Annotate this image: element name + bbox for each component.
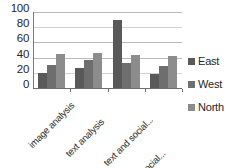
bar-east[interactable] <box>150 74 159 88</box>
bar-east[interactable] <box>38 73 47 88</box>
y-tick-label: 40 <box>17 49 29 61</box>
y-axis: 100806040200 <box>0 8 31 88</box>
bar-west[interactable] <box>122 63 131 88</box>
bar-north[interactable] <box>56 54 65 88</box>
bar-north[interactable] <box>131 55 140 88</box>
y-tick-label: 60 <box>17 33 29 45</box>
legend-label: North <box>198 102 224 113</box>
bar-north[interactable] <box>168 56 177 88</box>
bar-group <box>38 12 65 88</box>
y-tick-label: 80 <box>17 18 29 30</box>
legend-swatch-icon <box>188 104 195 111</box>
x-category-label: image analysis <box>27 100 77 150</box>
bar-north[interactable] <box>93 53 102 88</box>
bar-west[interactable] <box>159 66 168 88</box>
legend-item-north[interactable]: North <box>188 101 224 113</box>
legend-swatch-icon <box>188 81 195 88</box>
legend-swatch-icon <box>188 58 195 65</box>
legend-label: East <box>198 56 219 67</box>
y-tick-label: 100 <box>11 3 29 15</box>
bar-group <box>150 12 177 88</box>
y-tick-label: 0 <box>23 79 29 91</box>
x-category-label: text analysis <box>64 117 106 159</box>
legend-item-east[interactable]: East <box>188 55 219 67</box>
legend-item-west[interactable]: West <box>188 78 222 90</box>
bar-group <box>75 12 102 88</box>
bar-group <box>113 12 140 88</box>
bar-east[interactable] <box>75 68 84 88</box>
bar-west[interactable] <box>47 65 56 88</box>
plot-area <box>33 12 182 89</box>
bar-chart: 100806040200 image analysistext analysis… <box>0 0 241 168</box>
x-category-label: social... <box>139 148 168 168</box>
legend-label: West <box>198 79 222 90</box>
bar-west[interactable] <box>84 60 93 88</box>
y-tick-label: 20 <box>17 64 29 76</box>
bars-layer <box>33 12 182 89</box>
bar-east[interactable] <box>113 20 122 88</box>
legend: EastWestNorth <box>188 55 241 117</box>
x-axis: image analysistext analysistext and soci… <box>0 92 190 168</box>
